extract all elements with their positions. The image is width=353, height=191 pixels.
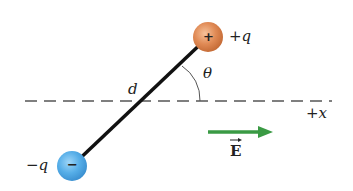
field-label: E xyxy=(230,144,241,159)
angle-arc xyxy=(182,66,200,101)
axis-label: +x xyxy=(306,106,327,121)
positive-charge-label: +q xyxy=(229,29,251,44)
negative-charge-label: −q xyxy=(26,158,48,173)
negative-sign: − xyxy=(67,158,78,171)
dipole-diagram xyxy=(0,0,353,191)
separation-label: d xyxy=(128,82,138,97)
angle-label: θ xyxy=(203,66,212,81)
electric-field-arrow xyxy=(208,126,273,138)
positive-sign: + xyxy=(203,30,214,43)
